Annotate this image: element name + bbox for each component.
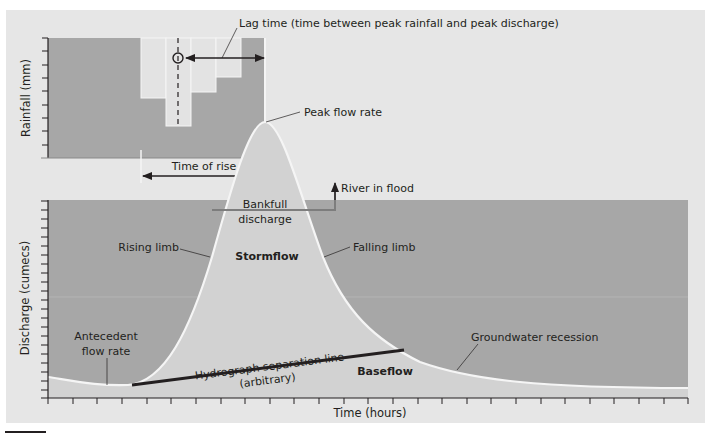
river-in-flood-label: River in flood bbox=[341, 182, 414, 195]
bankfull-label-1: Bankfull bbox=[243, 198, 288, 211]
antecedent-label-1: Antecedent bbox=[74, 330, 138, 343]
rainfall-axis-label: Rainfall (mm) bbox=[19, 59, 33, 137]
falling-limb-label: Falling limb bbox=[353, 241, 416, 254]
baseflow-label: Baseflow bbox=[357, 365, 413, 378]
stormflow-label: Stormflow bbox=[235, 250, 299, 263]
rain-bar-3 bbox=[191, 38, 216, 92]
bankfull-label-2: discharge bbox=[238, 213, 292, 226]
hydrograph-figure: Rainfall (mm) Lag time (time between pea… bbox=[0, 0, 713, 433]
discharge-axis-label: Discharge (cumecs) bbox=[18, 241, 32, 355]
peak-flow-label: Peak flow rate bbox=[304, 106, 382, 119]
rain-bar-1 bbox=[141, 38, 166, 98]
antecedent-label-2: flow rate bbox=[82, 345, 131, 358]
lag-time-label: Lag time (time between peak rainfall and… bbox=[239, 17, 559, 30]
time-of-rise-label: Time of rise bbox=[171, 160, 237, 173]
groundwater-recession-label: Groundwater recession bbox=[471, 331, 598, 344]
rising-limb-label: Rising limb bbox=[118, 241, 179, 254]
time-axis-label: Time (hours) bbox=[332, 406, 406, 420]
